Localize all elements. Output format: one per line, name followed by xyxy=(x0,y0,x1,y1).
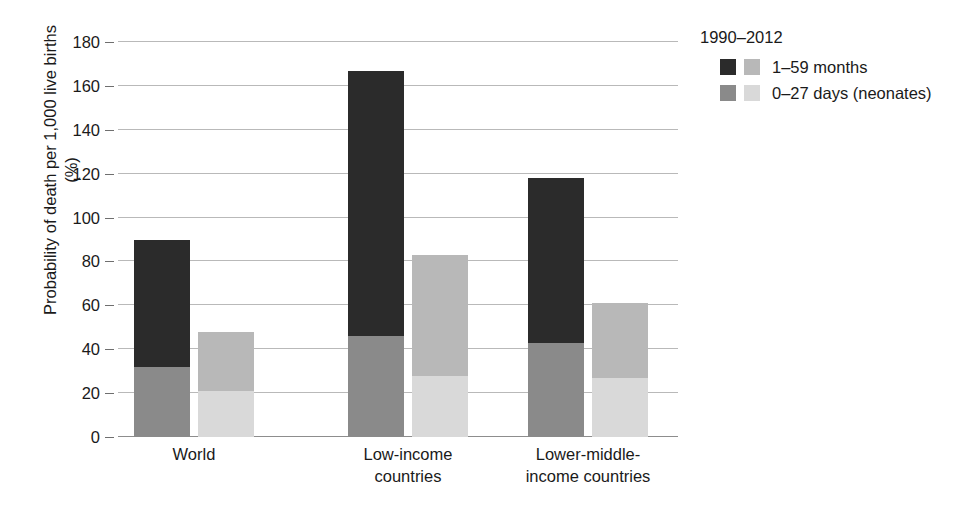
bar-segment-neonatal xyxy=(198,391,254,437)
y-axis-tick-mark xyxy=(105,86,114,87)
legend-swatch-2012 xyxy=(744,85,760,101)
legend-row: 0–27 days (neonates) xyxy=(700,80,970,106)
x-axis-label-line: Low-income xyxy=(308,443,508,465)
chart-figure: Probability of death per 1,000 live birt… xyxy=(0,0,980,507)
bar-segment-1-59-months xyxy=(198,332,254,391)
bar-segment-1-59-months xyxy=(348,71,404,337)
x-axis-category-labels: WorldLow-incomecountriesLower-middle-inc… xyxy=(118,443,678,503)
legend-label: 0–27 days (neonates) xyxy=(772,84,932,103)
x-axis-label-line: countries xyxy=(308,465,508,487)
bar-segment-neonatal xyxy=(412,376,468,437)
bar-segment-1-59-months xyxy=(134,240,190,367)
bar-segment-neonatal xyxy=(348,336,404,437)
y-axis-tick-mark xyxy=(105,393,114,394)
bar-segment-neonatal xyxy=(134,367,190,437)
bar-2012 xyxy=(592,303,648,437)
x-axis-label-line: World xyxy=(94,443,294,465)
y-axis-tick-marks xyxy=(0,42,120,437)
y-axis-tick-mark xyxy=(105,437,114,438)
bar-segment-1-59-months xyxy=(412,255,468,376)
legend-swatch-1990 xyxy=(720,59,736,75)
legend-title: 1990–2012 xyxy=(700,28,970,47)
y-axis-tick-mark xyxy=(105,174,114,175)
legend-row: 1–59 months xyxy=(700,54,970,80)
x-axis-label-line: income countries xyxy=(488,465,688,487)
bar-2012 xyxy=(198,332,254,437)
bar-segment-1-59-months xyxy=(592,303,648,378)
x-axis-label: World xyxy=(94,443,294,465)
y-axis-tick-mark xyxy=(105,261,114,262)
bar-2012 xyxy=(412,255,468,437)
legend: 1990–2012 1–59 months0–27 days (neonates… xyxy=(700,28,970,106)
bar-segment-neonatal xyxy=(528,343,584,437)
x-axis-label: Low-incomecountries xyxy=(308,443,508,487)
gridline xyxy=(118,41,678,42)
plot-area xyxy=(118,42,678,437)
bar-segment-1-59-months xyxy=(528,178,584,343)
legend-rows: 1–59 months0–27 days (neonates) xyxy=(700,54,970,106)
bar-1990 xyxy=(134,240,190,438)
legend-swatch-1990 xyxy=(720,85,736,101)
bar-segment-neonatal xyxy=(592,378,648,437)
y-axis-tick-mark xyxy=(105,130,114,131)
y-axis-tick-mark xyxy=(105,349,114,350)
x-axis-label: Lower-middle-income countries xyxy=(488,443,688,487)
y-axis-tick-mark xyxy=(105,42,114,43)
legend-label: 1–59 months xyxy=(772,58,867,77)
x-axis-label-line: Lower-middle- xyxy=(488,443,688,465)
legend-swatch-2012 xyxy=(744,59,760,75)
bar-1990 xyxy=(348,71,404,437)
y-axis-tick-mark xyxy=(105,218,114,219)
y-axis-tick-mark xyxy=(105,305,114,306)
bar-1990 xyxy=(528,178,584,437)
